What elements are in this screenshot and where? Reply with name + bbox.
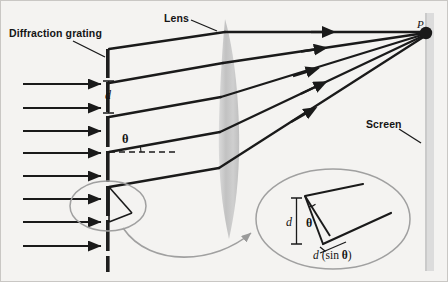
diffraction-grating-figure: Diffraction grating Lens Screen P d θ d … [0,0,448,282]
callout-connector-arrow [123,228,251,257]
path-difference-sin: (sin [322,249,339,261]
label-screen: Screen [366,118,402,130]
label-inset-angle-theta: θ [306,216,312,231]
callout-path-difference-sketch [109,187,132,222]
inset-ray-lines [305,184,391,244]
angle-theta-arc [140,146,141,152]
diffracted-rays [109,32,425,187]
screen-edge-shadow [425,13,427,271]
label-angle-theta: θ [122,132,129,147]
label-slit-spacing-d: d [105,88,111,103]
diagram-canvas [1,1,448,282]
incoming-wavefront-arrows [23,84,101,246]
path-difference-close: ) [348,249,352,261]
path-difference-d: d [313,249,319,261]
label-lens: Lens [164,12,189,24]
label-path-difference: d (sin θ) [313,249,352,261]
inset-d-dimension [291,198,302,244]
label-inset-spacing-d: d [286,215,292,230]
label-diffraction-grating: Diffraction grating [9,27,102,39]
label-point-p: P [417,18,424,30]
